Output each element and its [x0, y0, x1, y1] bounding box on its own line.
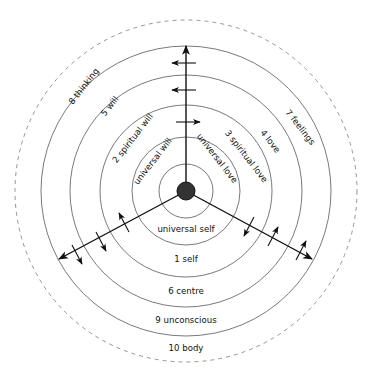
psychosynthesis-egg-diagram: universal will 2 spiritual will 5 will 8… [0, 0, 372, 384]
label-self: 1 self [174, 254, 198, 264]
label-universal-will: universal will [131, 136, 174, 186]
label-spiritual-will: 2 spiritual will [110, 111, 155, 164]
center-hub [177, 182, 195, 200]
label-centre: 6 centre [168, 286, 204, 296]
label-body: 10 body [169, 343, 204, 353]
label-unconscious: 9 unconscious [155, 315, 217, 325]
label-feelings: 7 feelings [284, 108, 318, 148]
diagram-canvas: universal will 2 spiritual will 5 will 8… [0, 0, 372, 384]
label-thinking: 8 thinking [66, 66, 100, 106]
label-universal-self: universal self [157, 224, 215, 234]
